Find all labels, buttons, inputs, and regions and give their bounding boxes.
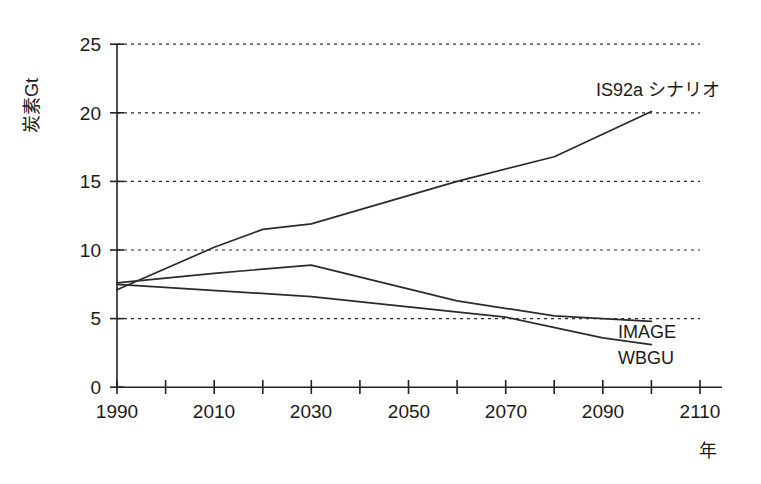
chart-figure: 炭素Gt 25 20 15 10 5 0 <box>0 0 761 484</box>
x-tick-label-2050: 2050 <box>388 401 430 422</box>
y-tick-label-25: 25 <box>80 34 101 55</box>
x-tick-label-2090: 2090 <box>582 401 624 422</box>
y-axis-title: 炭素Gt <box>22 78 42 133</box>
series-label-image: IMAGE <box>618 322 676 342</box>
y-tick-label-5: 5 <box>90 308 101 329</box>
y-tick-label-0: 0 <box>90 377 101 398</box>
x-axis-unit-label: 年 <box>699 441 717 461</box>
carbon-emissions-line-chart: 炭素Gt 25 20 15 10 5 0 <box>0 0 761 484</box>
series-label-is92a: IS92a シナリオ <box>596 80 720 100</box>
x-tick-label-2110: 2110 <box>680 401 721 422</box>
x-tick-label-2070: 2070 <box>485 401 527 422</box>
series-label-wbgu: WBGU <box>618 348 674 368</box>
x-tick-label-2010: 2010 <box>193 401 235 422</box>
y-tick-label-10: 10 <box>80 240 101 261</box>
y-tick-label-20: 20 <box>80 103 101 124</box>
x-tick-label-2030: 2030 <box>290 401 332 422</box>
y-tick-label-15: 15 <box>80 171 101 192</box>
x-tick-label-1990: 1990 <box>96 401 138 422</box>
